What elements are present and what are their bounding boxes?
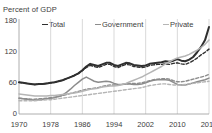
plot-area: [19, 19, 209, 114]
x-tick-label: 2010: [169, 120, 186, 129]
x-tick-label: 1978: [42, 120, 59, 129]
y-tick-label: 180: [0, 17, 17, 25]
x-tick-label: 2018: [201, 120, 212, 129]
y-tick-label: 0: [0, 110, 17, 118]
y-tick-label: 120: [0, 48, 17, 56]
x-tick-label: 2002: [137, 120, 154, 129]
x-tick-label: 1994: [106, 120, 123, 129]
y-tick-label: 60: [0, 79, 17, 87]
plot-svg: [19, 19, 209, 114]
chart-container: Percent of GDP 180 120 60 0 Total Govern…: [0, 0, 212, 133]
x-tick-label: 1986: [74, 120, 91, 129]
x-tick-label: 1970: [11, 120, 28, 129]
y-axis-tick-labels: 180 120 60 0: [0, 0, 17, 133]
